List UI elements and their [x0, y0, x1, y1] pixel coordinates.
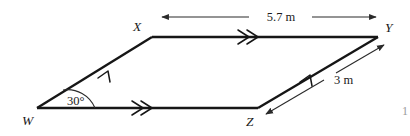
figure-root: 5.7 m 3 m 30° W X Y Z 1 — [0, 0, 410, 136]
dimension-label-top: 5.7 m — [267, 10, 296, 24]
edge-YZ — [258, 37, 378, 108]
edge-WX — [37, 37, 152, 108]
dimension-line-right — [266, 45, 384, 114]
parallelogram-diagram: 5.7 m 3 m 30° W X Y Z 1 — [0, 0, 410, 136]
right-margin-fragment: 1 — [402, 104, 408, 118]
dimension-label-right: 3 m — [334, 73, 353, 87]
vertex-label-Z: Z — [246, 114, 254, 129]
vertex-label-X: X — [132, 19, 142, 34]
dimension-arrow-right-upper — [336, 45, 384, 73]
vertex-label-Y: Y — [385, 20, 394, 35]
angle-label-w: 30° — [67, 94, 85, 108]
vertex-label-W: W — [22, 113, 35, 128]
chevron-marks-edge-WX — [98, 71, 110, 82]
